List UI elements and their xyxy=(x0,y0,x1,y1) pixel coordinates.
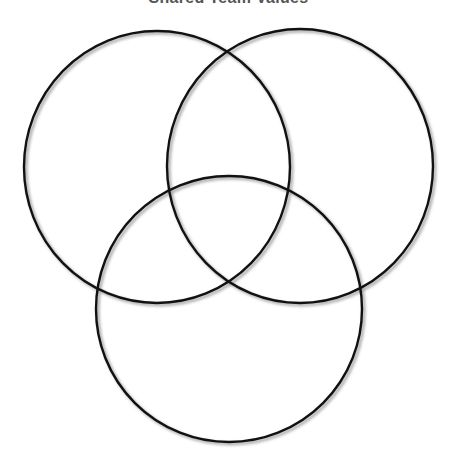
circle-shadow-bottom xyxy=(98,178,364,444)
circle-shadow-top-right xyxy=(169,31,435,305)
circle-shadow-top-left xyxy=(26,33,292,305)
venn-circle-top-left xyxy=(24,31,290,303)
venn-circle-top-right xyxy=(167,29,433,303)
venn-diagram xyxy=(0,0,457,467)
circles-group xyxy=(24,29,433,442)
venn-circle-bottom xyxy=(96,176,362,442)
circle-shadows xyxy=(26,31,435,444)
